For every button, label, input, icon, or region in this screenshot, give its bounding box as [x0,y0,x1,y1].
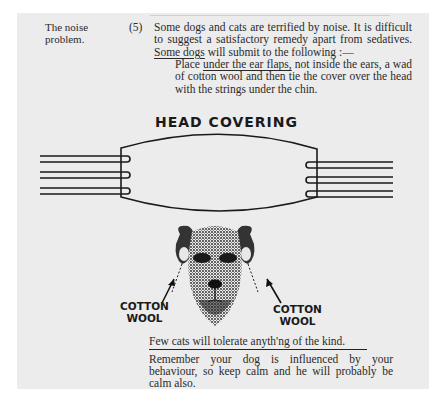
closing-paragraph: Remember your dog is influenced by your … [149,353,393,389]
margin-note-line2: problem. [45,33,115,45]
diagram-title: HEAD COVERING [155,114,298,130]
cotton-wool-label-right: COTTON WOOL [273,303,322,327]
intro-paragraph: Some dogs and cats are terrified by nois… [154,21,412,58]
label-line1: COTTON [273,303,322,315]
right-arrow-icon [255,275,285,305]
label-line1: COTTON [120,300,169,312]
cotton-wool-label-left: COTTON WOOL [120,300,169,324]
cats-note: Few cats will tolerate anyth'ng of the k… [149,335,367,350]
top-rule [150,15,390,16]
item-number: (5) [129,21,142,33]
label-line2: WOOL [273,315,322,327]
margin-note: The noise problem. [45,21,115,45]
intro-underlined: Some dogs [154,46,205,58]
label-line2: WOOL [120,312,169,324]
instruction-paragraph: Place under the ear flaps, not inside th… [175,58,412,95]
instruction-text: Place [175,58,203,70]
margin-note-line1: The noise [45,21,115,33]
head-covering-diagram [0,130,429,220]
intro-text-after: will submit to the following :— [205,46,354,58]
intro-text: Some dogs and cats are terrified by nois… [154,21,412,45]
instruction-underlined: under the ear flaps, [203,58,292,70]
